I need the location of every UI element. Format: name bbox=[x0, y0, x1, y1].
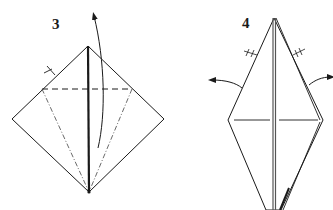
fold-out-arrow-left-icon bbox=[212, 80, 242, 88]
equal-angle-tick-icon bbox=[44, 66, 55, 75]
step-4-label: 4 bbox=[242, 16, 250, 31]
right-diagonal-fold-line bbox=[89, 89, 132, 192]
step-4-diagram bbox=[212, 18, 331, 210]
equal-angle-tick-right-icon bbox=[293, 48, 305, 57]
fold-out-arrow-right-icon bbox=[309, 77, 331, 85]
bottom-point-dot bbox=[87, 190, 90, 193]
center-thick-line bbox=[88, 46, 89, 192]
right-lower-edge-inner-layer bbox=[283, 122, 320, 210]
step-3-diagram bbox=[12, 16, 164, 194]
left-diagonal-fold-line bbox=[42, 89, 89, 192]
equal-angle-tick-left-icon bbox=[244, 49, 257, 57]
right-edge-inner-layer bbox=[276, 18, 320, 120]
step-3-label: 3 bbox=[52, 17, 60, 32]
fold-up-arrow-icon bbox=[94, 16, 103, 148]
origami-diagram-canvas bbox=[0, 0, 333, 210]
